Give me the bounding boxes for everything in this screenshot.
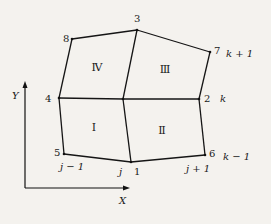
node-point bbox=[58, 97, 61, 100]
grid-nodes: 12345678 bbox=[45, 13, 220, 177]
x-axis-arrow-icon bbox=[123, 186, 130, 191]
grid-svg: XY 12345678 ⅠⅡⅢⅣ k + 1kk − 1j − 1jj + 1 bbox=[0, 0, 271, 224]
grid-edge bbox=[72, 30, 137, 39]
finite-volume-grid-diagram: XY 12345678 ⅠⅡⅢⅣ k + 1kk − 1j − 1jj + 1 bbox=[0, 0, 271, 224]
grid-edges bbox=[59, 30, 210, 162]
node-point bbox=[71, 38, 74, 41]
grid-edge bbox=[131, 155, 205, 162]
index-label: k + 1 bbox=[226, 48, 253, 59]
region-label: Ⅲ bbox=[160, 63, 171, 76]
region-label: Ⅰ bbox=[92, 121, 96, 134]
grid-edge bbox=[123, 30, 137, 99]
grid-edge bbox=[59, 98, 123, 99]
node-point bbox=[209, 51, 212, 54]
x-axis-label: X bbox=[118, 195, 127, 206]
node-point bbox=[63, 153, 66, 156]
node-label: 5 bbox=[54, 147, 60, 158]
node-point bbox=[204, 154, 207, 157]
index-label: j bbox=[117, 166, 122, 177]
grid-edge bbox=[59, 98, 64, 154]
y-axis-arrow-icon bbox=[23, 81, 28, 88]
node-label: 8 bbox=[63, 33, 69, 44]
node-label: 6 bbox=[209, 148, 215, 159]
node-label: 1 bbox=[134, 166, 140, 177]
index-label: k − 1 bbox=[223, 151, 250, 162]
grid-edge bbox=[123, 99, 131, 162]
grid-edge bbox=[199, 52, 210, 99]
node-label: 2 bbox=[204, 93, 210, 104]
node-point bbox=[136, 29, 139, 32]
node-label: 7 bbox=[214, 45, 220, 56]
region-label: Ⅱ bbox=[158, 124, 165, 137]
index-labels: k + 1kk − 1j − 1jj + 1 bbox=[58, 48, 253, 177]
index-label: k bbox=[220, 93, 226, 104]
grid-edge bbox=[59, 39, 72, 98]
grid-edge bbox=[199, 99, 205, 155]
index-label: j − 1 bbox=[58, 161, 84, 172]
region-label: Ⅳ bbox=[92, 61, 104, 74]
node-point bbox=[198, 98, 201, 101]
coordinate-axes: XY bbox=[12, 81, 130, 206]
y-axis-label: Y bbox=[12, 90, 20, 101]
grid-edge bbox=[137, 30, 210, 52]
node-label: 4 bbox=[45, 93, 51, 104]
index-label: j + 1 bbox=[184, 163, 210, 174]
node-label: 3 bbox=[134, 13, 140, 24]
node-point bbox=[130, 161, 133, 164]
node-point bbox=[122, 98, 125, 101]
